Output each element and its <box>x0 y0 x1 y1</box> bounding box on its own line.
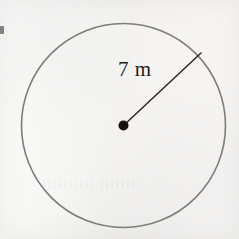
radius-label: 7 m <box>118 57 152 81</box>
circle-diagram-svg <box>0 0 239 239</box>
geometry-figure: iiiiiiiiii iiiiiii 7 m <box>0 0 239 239</box>
center-dot <box>119 121 129 131</box>
